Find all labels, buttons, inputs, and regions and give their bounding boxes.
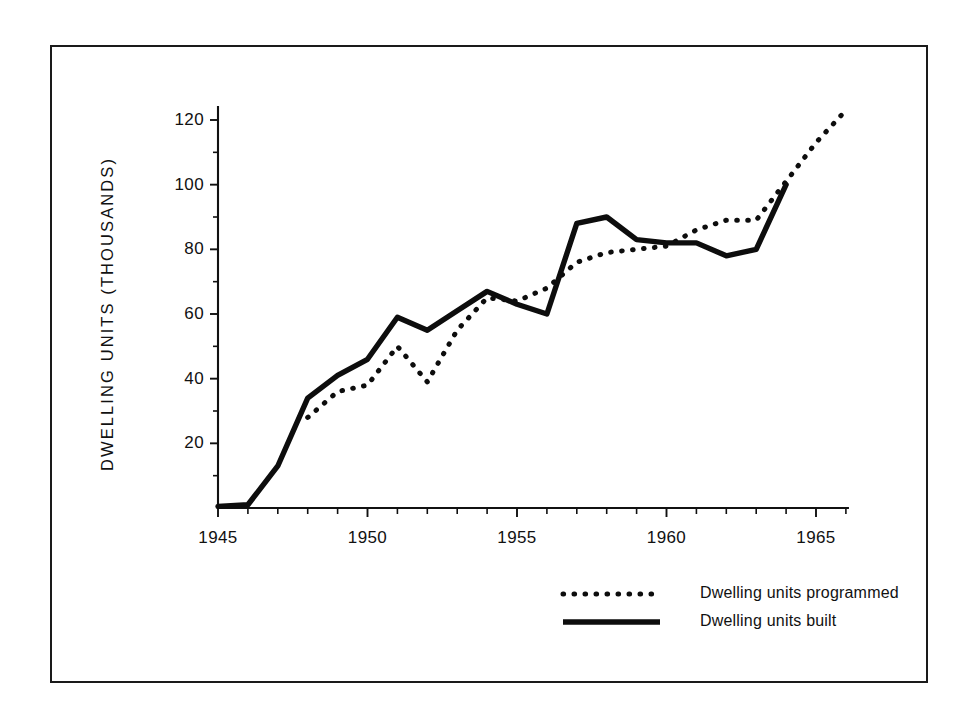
y-axis-tick-label: 100	[0, 175, 204, 195]
legend-entry-label: Dwelling units built	[700, 612, 837, 630]
y-axis-tick-label: 20	[0, 433, 204, 453]
x-axis-tick-label: 1945	[168, 528, 268, 548]
x-axis-tick-label: 1950	[318, 528, 418, 548]
x-axis-tick-label: 1960	[617, 528, 717, 548]
y-axis-tick-label: 60	[0, 304, 204, 324]
x-axis-tick-label: 1955	[467, 528, 567, 548]
y-axis-tick-label: 80	[0, 239, 204, 259]
y-axis-tick-label: 120	[0, 110, 204, 130]
figure-root: DWELLING UNITS (THOUSANDS) 2040608010012…	[0, 0, 971, 720]
y-axis-tick-label: 40	[0, 369, 204, 389]
legend-entry-label: Dwelling units programmed	[700, 584, 899, 602]
x-axis-tick-label: 1965	[766, 528, 866, 548]
